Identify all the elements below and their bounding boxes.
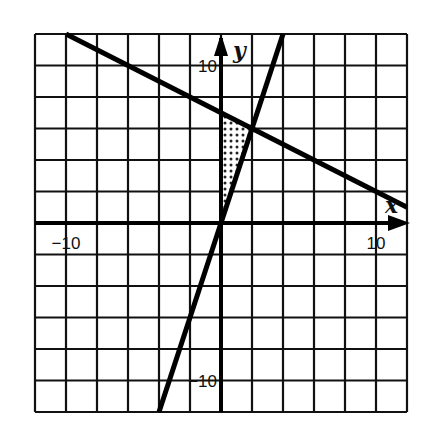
y-tick-label: −10 [188,372,217,391]
x-tick-label: −10 [52,234,81,253]
y-axis-label: y [232,37,248,63]
y-axis-arrow-icon [214,34,228,56]
y-tick-label: 10 [198,57,217,76]
coordinate-plane: −101010−10 x y [0,0,427,431]
x-tick-label: 10 [367,234,386,253]
x-axis-label: x [384,192,399,218]
